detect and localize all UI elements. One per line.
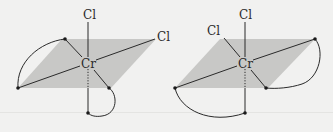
bleed-through-text [0,112,333,113]
right-metal-label: Cr [238,57,253,71]
left-top-cl-label: Cl [83,8,96,22]
left-isomer: Cl Cl Cr [16,8,170,116]
right-side-cl-label: Cl [207,24,220,38]
left-donor-dot [63,37,67,41]
right-donor-dot [243,111,247,115]
left-donor-dot [16,86,20,90]
right-donor-dot [173,86,177,90]
left-donor-dot [86,111,90,115]
right-top-cl-label: Cl [239,8,252,22]
right-donor-dot [313,37,317,41]
left-side-cl-label: Cl [157,30,170,44]
left-metal-label: Cr [81,57,96,71]
left-donor-dot [107,86,111,90]
right-donor-dot [264,86,268,90]
isomer-diagram: Cl Cl Cr Cl Cl Cr [0,0,333,132]
right-isomer: Cl Cl Cr [173,8,320,117]
